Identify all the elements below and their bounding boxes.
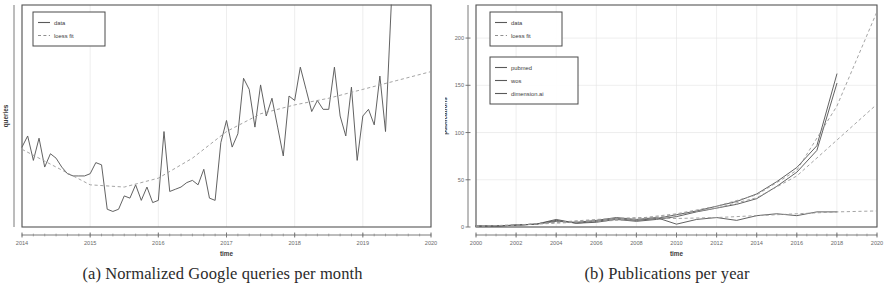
caption-a: (a) Normalized Google queries per month (0, 264, 445, 284)
legend-label-loess-fit: loess fit (511, 33, 531, 39)
figure-row: 2014201520162017201820192020timequeriesd… (0, 0, 889, 284)
x-axis-tick-label: 2015 (84, 240, 96, 246)
x-axis-tick-label: 2008 (630, 240, 642, 246)
x-axis-tick-label: 2012 (710, 240, 722, 246)
subfigure-a: 2014201520162017201820192020timequeriesd… (0, 0, 445, 284)
subfigure-b: 2000200220042006200820102012201420162018… (445, 0, 889, 284)
series-wos (476, 83, 837, 226)
legend-label-dimension-ai: dimension.ai (511, 91, 544, 97)
legend-box (33, 12, 105, 46)
legend-label-pubmed: pubmed (511, 65, 532, 71)
x-axis-tick-label: 2018 (288, 240, 300, 246)
y-axis-title: queries (2, 104, 10, 127)
x-axis-tick-label: 2002 (510, 240, 522, 246)
legend-label-data: data (511, 20, 523, 26)
y-axis-tick-label: 0 (461, 224, 464, 230)
x-axis-tick-label: 2014 (750, 240, 762, 246)
caption-b: (b) Publications per year (445, 264, 889, 284)
legend-a[interactable]: dataloess fit (33, 12, 105, 46)
x-axis-tick-label: 2000 (470, 240, 482, 246)
x-axis-tick-label: 2020 (871, 240, 883, 246)
chart-a-google-queries: 2014201520162017201820192020timequeriesd… (0, 0, 445, 258)
x-axis-tick-label: 2004 (550, 240, 562, 246)
legend-label-wos: wos (510, 78, 521, 84)
x-axis-tick-label: 2019 (357, 240, 369, 246)
x-axis-tick-label: 2017 (220, 240, 232, 246)
x-axis-tick-label: 2006 (590, 240, 602, 246)
legend-label-loess-fit: loess fit (54, 33, 74, 39)
legends: dataloess fitpubmedwosdimension.ai (490, 12, 578, 104)
legends: dataloess fit (33, 12, 105, 46)
legend-label-data: data (54, 20, 66, 26)
chart-b-publications: 2000200220042006200820102012201420162018… (445, 0, 889, 258)
y-axis-tick-label: 200 (455, 35, 464, 41)
x-axis-tick-label: 2014 (16, 240, 28, 246)
legend-b-top[interactable]: dataloess fit (490, 12, 562, 46)
x-axis-tick-label: 2018 (831, 240, 843, 246)
y-axis-tick-label: 150 (455, 82, 464, 88)
y-axis-title: publications (445, 97, 449, 135)
x-axis-tick-label: 2010 (670, 240, 682, 246)
y-axis-tick-label: 50 (458, 177, 464, 183)
legend-b-bottom[interactable]: pubmedwosdimension.ai (490, 57, 578, 104)
x-axis-title: time (670, 250, 684, 257)
x-axis-tick-label: 2020 (425, 240, 437, 246)
y-axis-tick-label: 100 (455, 130, 464, 136)
legend-box (490, 12, 562, 46)
x-axis-tick-label: 2016 (791, 240, 803, 246)
x-axis-tick-label: 2016 (152, 240, 164, 246)
x-axis-title: time (220, 250, 234, 257)
